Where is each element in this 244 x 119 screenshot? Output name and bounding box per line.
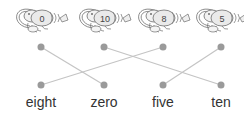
bottom-dot-zero[interactable]	[101, 82, 108, 89]
shrimp-number-8: 8	[161, 14, 166, 24]
top-dot-0[interactable]	[38, 44, 45, 51]
word-label-five: five	[152, 94, 174, 110]
shrimp-number-5: 5	[219, 14, 224, 24]
top-dot-10[interactable]	[101, 44, 108, 51]
connection-line-5-five	[163, 47, 221, 85]
word-label-zero: zero	[90, 94, 117, 110]
connection-line-10-ten	[104, 47, 221, 85]
shrimp-number-10: 10	[100, 14, 110, 24]
bottom-dot-ten[interactable]	[218, 82, 225, 89]
word-label-eight: eight	[26, 94, 56, 110]
connection-line-8-eight	[41, 47, 163, 85]
shrimp-number-0: 0	[39, 14, 44, 24]
bottom-dot-five[interactable]	[160, 82, 167, 89]
word-label-ten: ten	[211, 94, 230, 110]
connection-line-0-zero	[41, 47, 104, 85]
bottom-dot-eight[interactable]	[38, 82, 45, 89]
top-dot-5[interactable]	[218, 44, 225, 51]
top-dot-8[interactable]	[160, 44, 167, 51]
